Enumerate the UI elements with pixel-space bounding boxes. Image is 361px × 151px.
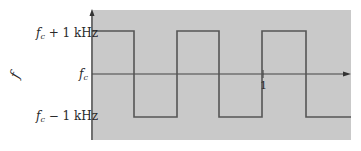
y-tick-center: fc [79, 67, 88, 85]
square-wave-plot [0, 0, 361, 151]
x-tick-label-1: 1 [260, 79, 267, 92]
y-axis-arrow-icon [90, 9, 95, 16]
y-tick-low: fc − 1 kHz [36, 109, 98, 127]
x-axis-arrow-icon [343, 72, 351, 77]
y-tick-high: fc + 1 kHz [36, 26, 98, 44]
